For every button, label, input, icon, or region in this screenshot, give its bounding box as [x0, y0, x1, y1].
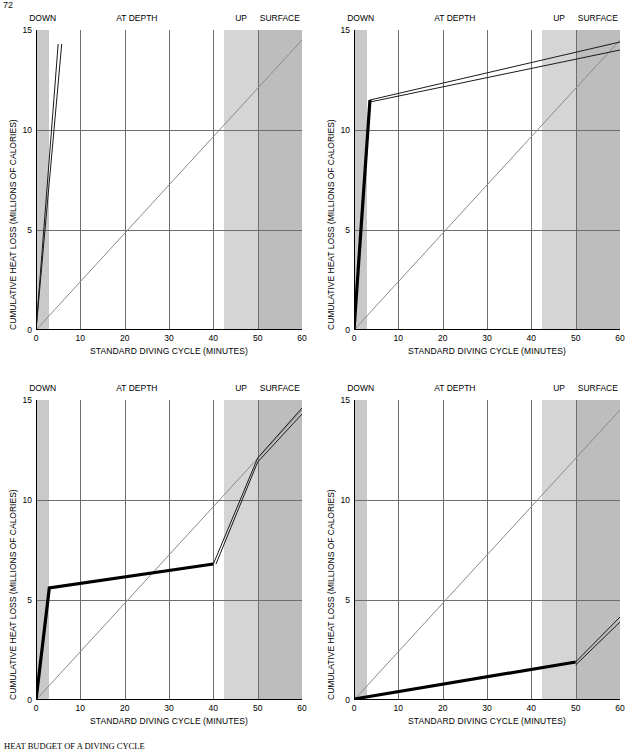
- x-axis-line: [354, 699, 620, 700]
- y-tick-15: 15: [10, 26, 32, 35]
- series-layer-top-right: [354, 30, 620, 330]
- x-tick-40: 40: [201, 334, 225, 343]
- plot-area-top-left: [36, 30, 302, 330]
- y-tick-15: 15: [10, 396, 32, 405]
- chart-panel-top-left: DOWNAT DEPTHUPSURFACE0510150102030405060…: [0, 8, 317, 376]
- x-tick-50: 50: [246, 704, 270, 713]
- x-tick-20: 20: [431, 704, 455, 713]
- x-tick-20: 20: [113, 334, 137, 343]
- x-tick-0: 0: [24, 704, 48, 713]
- series-heat-loss-lower: [576, 622, 620, 665]
- phase-label-down: DOWN: [321, 14, 401, 23]
- series-heat-loss-lower: [370, 50, 620, 102]
- x-tick-10: 10: [386, 334, 410, 343]
- y-axis-line: [354, 30, 355, 330]
- x-axis-line: [354, 329, 620, 330]
- x-tick-50: 50: [564, 334, 588, 343]
- phase-label-down: DOWN: [3, 384, 83, 393]
- y-axis-line: [36, 30, 37, 330]
- y-axis-title: CUMULATIVE HEAT LOSS (MILLIONS OF CALORI…: [326, 489, 336, 700]
- x-tick-40: 40: [519, 704, 543, 713]
- x-axis-title: STANDARD DIVING CYCLE (MINUTES): [36, 346, 302, 356]
- x-tick-30: 30: [157, 334, 181, 343]
- series-layer-bottom-right: [354, 400, 620, 700]
- series-heat-loss-thick: [354, 662, 576, 699]
- x-tick-0: 0: [24, 334, 48, 343]
- chart-panel-bottom-left: DOWNAT DEPTHUPSURFACE0510150102030405060…: [0, 378, 317, 746]
- x-tick-50: 50: [564, 704, 588, 713]
- plot-area-bottom-left: [36, 400, 302, 700]
- x-tick-10: 10: [68, 334, 92, 343]
- series-heat-loss-lower: [36, 44, 62, 330]
- phase-label-surface: SURFACE: [240, 14, 320, 23]
- caption-lead: HEAT BUDGET OF A DIVING CYCLE: [4, 741, 145, 750]
- x-axis-title: STANDARD DIVING CYCLE (MINUTES): [354, 716, 620, 726]
- x-axis-title: STANDARD DIVING CYCLE (MINUTES): [36, 716, 302, 726]
- plot-area-top-right: [354, 30, 620, 330]
- y-axis-title: CUMULATIVE HEAT LOSS (MILLIONS OF CALORI…: [8, 119, 18, 330]
- x-axis-title: STANDARD DIVING CYCLE (MINUTES): [354, 346, 620, 356]
- x-tick-30: 30: [475, 704, 499, 713]
- phase-label-at-depth: AT DEPTH: [415, 14, 495, 23]
- x-tick-50: 50: [246, 334, 270, 343]
- x-tick-40: 40: [201, 704, 225, 713]
- x-tick-60: 60: [290, 704, 314, 713]
- series-heat-loss-upper: [370, 42, 620, 100]
- series-heat-loss-upper: [576, 617, 620, 662]
- series-reference: [36, 40, 302, 330]
- phase-label-down: DOWN: [321, 384, 401, 393]
- x-axis-line: [36, 329, 302, 330]
- series-heat-loss-upper: [213, 408, 302, 564]
- x-tick-60: 60: [608, 334, 632, 343]
- series-layer-top-left: [36, 30, 302, 330]
- series-heat-loss-thick: [354, 100, 370, 330]
- y-axis-title: CUMULATIVE HEAT LOSS (MILLIONS OF CALORI…: [8, 489, 18, 700]
- chart-panel-bottom-right: DOWNAT DEPTHUPSURFACE0510150102030405060…: [318, 378, 635, 746]
- chart-panel-top-right: DOWNAT DEPTHUPSURFACE0510150102030405060…: [318, 8, 635, 376]
- phase-label-surface: SURFACE: [558, 14, 635, 23]
- series-layer-bottom-left: [36, 400, 302, 700]
- phase-label-at-depth: AT DEPTH: [97, 384, 177, 393]
- y-axis-line: [36, 400, 37, 700]
- series-reference: [354, 410, 620, 700]
- x-tick-60: 60: [608, 704, 632, 713]
- x-tick-10: 10: [386, 704, 410, 713]
- phase-label-down: DOWN: [3, 14, 83, 23]
- y-tick-15: 15: [328, 396, 350, 405]
- chart-grid: DOWNAT DEPTHUPSURFACE0510150102030405060…: [0, 8, 635, 743]
- x-tick-20: 20: [113, 704, 137, 713]
- x-tick-40: 40: [519, 334, 543, 343]
- y-axis-title: CUMULATIVE HEAT LOSS (MILLIONS OF CALORI…: [326, 119, 336, 330]
- figure-caption: HEAT BUDGET OF A DIVING CYCLE: [4, 741, 631, 750]
- series-reference: [354, 40, 620, 330]
- page-root: 72 DOWNAT DEPTHUPSURFACE0510150102030405…: [0, 0, 635, 750]
- phase-label-at-depth: AT DEPTH: [415, 384, 495, 393]
- y-tick-15: 15: [328, 26, 350, 35]
- series-heat-loss-thick: [36, 564, 213, 700]
- x-tick-10: 10: [68, 704, 92, 713]
- x-tick-20: 20: [431, 334, 455, 343]
- x-tick-60: 60: [290, 334, 314, 343]
- x-tick-30: 30: [475, 334, 499, 343]
- x-tick-30: 30: [157, 704, 181, 713]
- phase-label-at-depth: AT DEPTH: [97, 14, 177, 23]
- x-axis-line: [36, 699, 302, 700]
- phase-label-surface: SURFACE: [558, 384, 635, 393]
- phase-label-surface: SURFACE: [240, 384, 320, 393]
- y-axis-line: [354, 400, 355, 700]
- series-heat-loss-upper: [36, 44, 58, 330]
- x-tick-0: 0: [342, 704, 366, 713]
- x-tick-0: 0: [342, 334, 366, 343]
- plot-area-bottom-right: [354, 400, 620, 700]
